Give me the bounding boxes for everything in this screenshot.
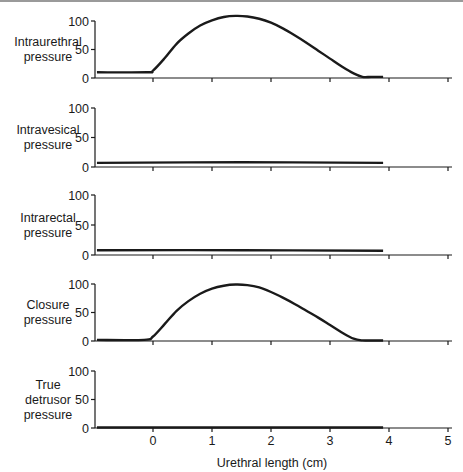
y-tick-label: 0 [82, 422, 89, 436]
x-tick-label: 1 [209, 434, 216, 448]
y-tick-label: 100 [68, 189, 89, 203]
y-tick-label: 100 [68, 365, 89, 379]
panel-closure: 050100Closurepressure [24, 278, 452, 349]
panel-label: pressure [24, 408, 73, 422]
y-tick-label: 100 [68, 102, 89, 116]
y-tick-label: 0 [82, 249, 89, 263]
pressure-curve [97, 16, 383, 77]
panel-intravesical: 050100Intravesicalpressure [16, 102, 452, 175]
y-tick-label: 0 [82, 72, 89, 86]
x-tick-label: 2 [268, 434, 275, 448]
y-tick-label: 50 [75, 219, 89, 233]
panel-true-detrusor: 050100012345Truedetrusorpressure [24, 365, 452, 449]
pressure-curve [97, 285, 383, 341]
x-tick-label: 0 [150, 434, 157, 448]
x-axis-label: Urethral length (cm) [217, 456, 327, 470]
urethral-pressure-profile-chart: 050100Intraurethralpressure050100Intrave… [0, 0, 463, 472]
y-tick-label: 0 [82, 161, 89, 175]
pressure-curve [97, 250, 383, 251]
panel-label: Intrarectal [20, 211, 76, 225]
panel-intrarectal: 050100Intrarectalpressure [20, 189, 452, 263]
x-tick-label: 3 [327, 434, 334, 448]
x-tick-label: 5 [445, 434, 452, 448]
panel-label: Intravesical [16, 123, 79, 137]
y-tick-label: 100 [68, 278, 89, 292]
panel-label: detrusor [25, 393, 71, 407]
y-tick-label: 100 [68, 15, 89, 29]
panel-label: Intraurethral [14, 35, 81, 49]
pressure-curve [97, 162, 383, 163]
panel-label: True [35, 378, 60, 392]
panel-label: pressure [24, 226, 73, 240]
y-tick-label: 0 [82, 335, 89, 349]
x-tick-label: 4 [386, 434, 393, 448]
panel-label: pressure [24, 138, 73, 152]
panel-label: Closure [26, 298, 69, 312]
panel-label: pressure [24, 50, 73, 64]
panel-label: pressure [24, 313, 73, 327]
panel-intraurethral: 050100Intraurethralpressure [14, 15, 452, 86]
y-tick-label: 50 [75, 306, 89, 320]
y-tick-label: 50 [75, 393, 89, 407]
